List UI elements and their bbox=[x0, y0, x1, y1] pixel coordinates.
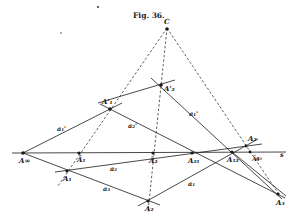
point-A-infinity bbox=[21, 151, 25, 155]
line-a1 bbox=[138, 139, 258, 206]
label-A2: A₂ bbox=[144, 204, 154, 213]
line-a1-prime bbox=[23, 103, 122, 153]
point-A1-prime bbox=[108, 107, 112, 111]
projection-ray-C-A3 bbox=[167, 28, 280, 196]
label-C: C bbox=[164, 17, 170, 26]
point-A3-bar bbox=[249, 151, 252, 154]
label-A1: A₁ bbox=[62, 174, 72, 183]
label-A-infinity: A∞ bbox=[18, 156, 30, 165]
projection-ray-C-A2 bbox=[148, 28, 167, 212]
label-A2-prime: A'₂ bbox=[163, 84, 175, 93]
point-A2-bar bbox=[151, 151, 154, 154]
line-label: a₃ bbox=[103, 185, 110, 193]
point-A1 bbox=[65, 169, 68, 172]
line-label: a₁' bbox=[57, 125, 66, 133]
point-A21 bbox=[190, 151, 193, 154]
line-label: a₁' bbox=[189, 110, 198, 118]
label-A12: A₁₂ bbox=[226, 155, 239, 164]
label-A3: A₃ bbox=[275, 198, 285, 207]
point-C bbox=[165, 27, 169, 31]
point-A2-small bbox=[245, 145, 248, 148]
speck bbox=[97, 6, 99, 8]
axis-label-s: s bbox=[280, 151, 284, 159]
line-label: a₂ bbox=[110, 165, 117, 173]
line-a1-prime-right bbox=[151, 78, 282, 199]
point-A12 bbox=[230, 150, 233, 153]
line-label: a₃ bbox=[256, 155, 263, 161]
point-A2 bbox=[146, 199, 149, 202]
line-label: a₂' bbox=[128, 122, 137, 130]
geometric-construction-diagram: C A'₁ A'₂ A∞ Ā₁ Ā₂ A₂₁ A₁₂ A₂ Ā₃ A₁ A₂ A… bbox=[0, 0, 303, 220]
axis-line-s bbox=[12, 152, 286, 153]
point-A2-prime bbox=[159, 83, 163, 87]
line-label: a₁ bbox=[188, 180, 195, 188]
label-A1-bar: Ā₁ bbox=[76, 155, 86, 164]
label-A21: A₂₁ bbox=[187, 156, 200, 165]
label-A2-small: A₂ bbox=[247, 134, 257, 143]
label-A1-prime: A'₁ bbox=[101, 97, 113, 106]
point-A3 bbox=[276, 192, 279, 195]
label-A2-bar: Ā₂ bbox=[148, 156, 158, 165]
speck bbox=[60, 32, 61, 33]
